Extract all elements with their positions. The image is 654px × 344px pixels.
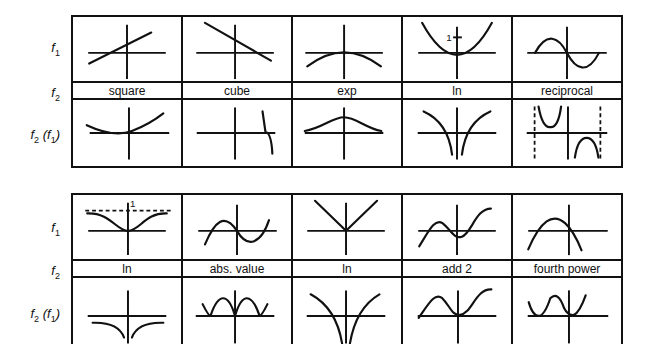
f1-graph-parabola-up: 1	[403, 17, 513, 81]
f1-graph-v-shape	[293, 195, 403, 259]
composite-graph-log-v	[293, 278, 403, 344]
composite-graph-log-negative	[73, 278, 183, 344]
f1-graph-sine-wave	[183, 195, 293, 259]
composite-graph-cubic-vertical	[183, 100, 293, 166]
f2-label-row: square cube exp ln reciprocal	[73, 83, 621, 100]
composite-graph-symmetric-log	[403, 100, 513, 166]
composite-graph-row	[73, 278, 621, 344]
f1-graph-parabola-down	[513, 195, 621, 259]
f2-label: abs. value	[183, 261, 293, 276]
f2-label: ln	[403, 83, 513, 98]
f2-label: reciprocal	[513, 83, 621, 98]
row-label-f1-bottom: f1	[0, 220, 60, 238]
f1-graph-parabola-down	[293, 17, 403, 81]
f2-label: ln	[293, 261, 403, 276]
f2-label: square	[73, 83, 183, 98]
row-label-composite-top: f2 (f1)	[0, 127, 60, 145]
svg-text:1: 1	[130, 198, 135, 209]
f2-label: add 2	[403, 261, 513, 276]
row-label-f2-top: f2	[0, 85, 60, 103]
svg-text:1: 1	[446, 32, 451, 43]
f1-graph-cubic-wave	[403, 195, 513, 259]
composition-table-1: 1 square cube exp ln reciprocal	[71, 15, 623, 168]
f2-label: ln	[73, 261, 183, 276]
f2-label: exp	[293, 83, 403, 98]
composite-graph-row	[73, 100, 621, 166]
composite-graph-shifted-cubic	[403, 278, 513, 344]
row-label-f2-bottom: f2	[0, 263, 60, 281]
composite-graph-bell-curve	[293, 100, 403, 166]
f1-graph-line-increasing	[73, 17, 183, 81]
f1-graph-sine-wave	[513, 17, 621, 81]
row-label-f1-top: f1	[0, 40, 60, 58]
f1-graph-row: 1	[73, 17, 621, 83]
f1-graph-row: 1	[73, 195, 621, 261]
composite-graph-abs-sine	[183, 278, 293, 344]
composite-graph-reciprocal-sine	[513, 100, 621, 166]
row-label-composite-bottom: f2 (f1)	[0, 306, 60, 324]
composite-graph-shifted-parabola	[73, 100, 183, 166]
composition-table-2: 1 ln abs. value ln add 2 fourth power	[71, 193, 623, 344]
composite-graph-w-shape	[513, 278, 621, 344]
f2-label: fourth power	[513, 261, 621, 276]
f2-label-row: ln abs. value ln add 2 fourth power	[73, 261, 621, 278]
f1-graph-line-decreasing	[183, 17, 293, 81]
f2-label: cube	[183, 83, 293, 98]
f1-graph-inverted-bell: 1	[73, 195, 183, 259]
